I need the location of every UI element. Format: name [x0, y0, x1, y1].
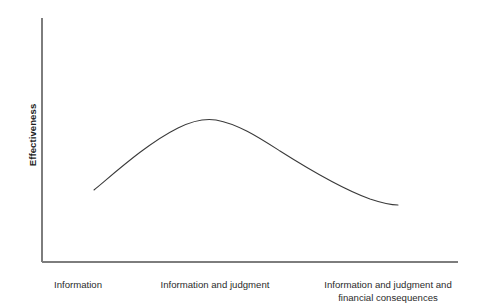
effectiveness-curve-chart: Effectiveness Information Information an…: [0, 0, 490, 308]
y-axis-title: Effectiveness: [26, 50, 40, 220]
effectiveness-curve-line: [94, 119, 398, 205]
plot-area: [0, 0, 490, 308]
x-axis-label-information-judgment-financial-consequences: Information and judgment and financial c…: [300, 279, 476, 304]
x-axis-label-information: Information: [54, 279, 164, 292]
x-axis-label-information-and-judgment: Information and judgment: [150, 279, 280, 292]
